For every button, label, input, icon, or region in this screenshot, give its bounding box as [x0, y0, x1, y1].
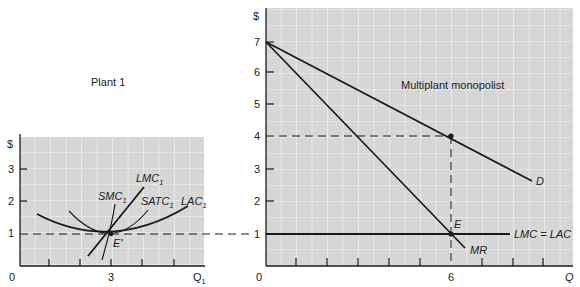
right-x-tick-label: 6 — [448, 271, 454, 283]
right-origin-label: 0 — [256, 271, 262, 283]
demand-label: D — [536, 175, 544, 187]
mr-label: MR — [470, 244, 487, 256]
e-label: E — [454, 218, 462, 230]
left-panel-title: Plant 1 — [91, 76, 125, 88]
left-origin-label: 0 — [9, 271, 15, 283]
right-y-axis-label: $ — [253, 10, 259, 22]
right-y-tick-label: 1 — [254, 228, 260, 240]
left-panel-plant1: Plant 1 $ 3 2 1 0 3 Q1 LMC1 SMC1 SATC1 — [7, 76, 207, 286]
right-panel-multiplant: Multiplant monopolist $ 7 6 5 4 3 2 1 — [253, 8, 574, 283]
left-y-tick-label: 1 — [8, 227, 14, 239]
right-y-tick-label: 5 — [254, 98, 260, 110]
left-x-axis-label: Q1 — [193, 271, 206, 286]
diagram-canvas: Plant 1 $ 3 2 1 0 3 Q1 LMC1 SMC1 SATC1 — [0, 0, 580, 287]
left-y-axis-label: $ — [7, 138, 13, 150]
right-y-tick-label: 6 — [254, 66, 260, 78]
left-y-tick-label: 2 — [8, 195, 14, 207]
right-y-tick-label: 3 — [254, 163, 260, 175]
e-point — [448, 231, 453, 236]
right-y-tick-label: 2 — [254, 195, 260, 207]
right-panel-title: Multiplant monopolist — [401, 79, 504, 91]
right-y-tick-label: 4 — [254, 130, 260, 142]
right-y-tick-label: 7 — [254, 36, 260, 48]
demand-point — [448, 133, 453, 138]
e-prime-label: E' — [113, 237, 123, 249]
lmc-lac-label: LMC = LAC — [514, 228, 571, 240]
left-x-tick-label: 3 — [108, 271, 114, 283]
left-y-tick-label: 3 — [8, 163, 14, 175]
right-x-axis-label: Q — [565, 271, 574, 283]
